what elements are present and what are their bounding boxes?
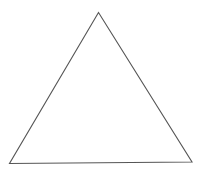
background — [0, 0, 202, 177]
diagram-canvas — [0, 0, 202, 177]
